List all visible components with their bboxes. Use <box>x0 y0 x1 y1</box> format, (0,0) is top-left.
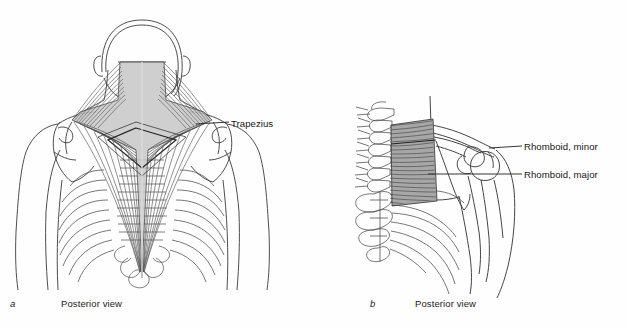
rib-cage-b <box>390 191 464 294</box>
rhomboid-muscles <box>389 119 437 206</box>
panel-b-caption: Posterior view <box>415 298 476 309</box>
panel-a-letter: a <box>10 298 15 309</box>
panel-b-letter: b <box>370 298 375 309</box>
label-rhomboid-major: Rhomboid, major <box>524 169 598 180</box>
humerus-and-arm <box>459 150 515 298</box>
panel-b-illustration <box>355 96 522 298</box>
figure-artwork <box>0 0 628 329</box>
panel-a-caption: Posterior view <box>61 298 122 309</box>
rhomboid-minor-leader-line <box>489 146 522 148</box>
label-trapezius: Trapezius <box>231 118 273 129</box>
label-rhomboid-minor: Rhomboid, minor <box>524 141 598 152</box>
panel-a-illustration <box>16 20 270 290</box>
anatomy-figure: Trapezius Rhomboid, minor Rhomboid, majo… <box>0 0 628 329</box>
spine-column-b <box>355 102 394 262</box>
